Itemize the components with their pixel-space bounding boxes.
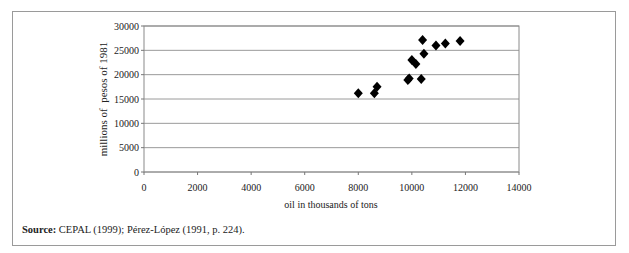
- diamond-marker: [417, 74, 426, 84]
- y-tick-label: 20000: [114, 69, 139, 80]
- diamond-marker: [431, 40, 440, 50]
- source-label: Source:: [22, 224, 56, 235]
- y-tick-label: 5000: [119, 142, 139, 153]
- scatter-chart: 050001000015000200002500030000 020004000…: [0, 0, 629, 253]
- source-text: CEPAL (1999); Pérez-López (1991, p. 224)…: [56, 224, 244, 235]
- diamond-marker: [441, 39, 450, 49]
- x-tick-label: 14000: [507, 182, 532, 193]
- data-points: [354, 35, 465, 98]
- x-axis-ticks: 02000400060008000100001200014000: [142, 172, 532, 193]
- diamond-marker: [354, 88, 363, 98]
- x-tick-label: 4000: [241, 182, 261, 193]
- x-axis-label: oil in thousands of tons: [284, 199, 377, 210]
- y-tick-label: 15000: [114, 94, 139, 105]
- y-tick-label: 0: [134, 167, 139, 178]
- x-tick-label: 6000: [295, 182, 315, 193]
- y-axis-ticks: 050001000015000200002500030000: [114, 21, 144, 178]
- y-tick-label: 30000: [114, 21, 139, 32]
- y-tick-label: 25000: [114, 45, 139, 56]
- x-tick-label: 10000: [399, 182, 424, 193]
- gridlines: [144, 26, 519, 172]
- diamond-marker: [418, 35, 427, 45]
- x-tick-label: 2000: [188, 182, 208, 193]
- x-tick-label: 0: [142, 182, 147, 193]
- y-axis-label: millions of pesos of 1981: [97, 42, 109, 157]
- diamond-marker: [456, 36, 465, 46]
- x-tick-label: 12000: [453, 182, 478, 193]
- x-tick-label: 8000: [348, 182, 368, 193]
- y-tick-label: 10000: [114, 118, 139, 129]
- source-note: Source: CEPAL (1999); Pérez-López (1991,…: [22, 224, 245, 235]
